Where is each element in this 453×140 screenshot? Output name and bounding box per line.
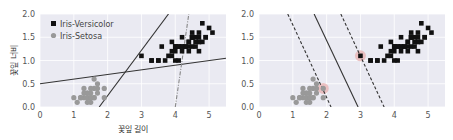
versicolor-point bbox=[385, 54, 390, 59]
versicolor-point bbox=[200, 40, 205, 45]
x-tick-label: 0 bbox=[256, 111, 261, 120]
versicolor-point bbox=[190, 35, 195, 40]
setosa-point bbox=[75, 100, 80, 105]
x-tick-label: 1 bbox=[71, 111, 76, 120]
y-tick-label: 1.5 bbox=[241, 33, 254, 42]
versicolor-point bbox=[368, 58, 373, 63]
versicolor-point bbox=[382, 58, 387, 63]
versicolor-point bbox=[210, 30, 215, 35]
versicolor-point bbox=[193, 40, 198, 45]
versicolor-point bbox=[399, 35, 404, 40]
setosa-point bbox=[321, 95, 326, 100]
y-tick-label: 0.5 bbox=[241, 80, 254, 89]
setosa-point bbox=[102, 95, 107, 100]
setosa-point bbox=[311, 77, 316, 82]
versicolor-point bbox=[203, 35, 208, 40]
setosa-point bbox=[294, 100, 299, 105]
x-tick-label: 5 bbox=[207, 111, 212, 120]
x-tick-label: 4 bbox=[392, 111, 397, 120]
versicolor-point bbox=[399, 49, 404, 54]
setosa-point bbox=[300, 90, 305, 95]
versicolor-point bbox=[193, 44, 198, 49]
setosa-point bbox=[85, 100, 90, 105]
versicolor-point bbox=[375, 58, 380, 63]
right-plot: 0123450.00.51.01.52.0 bbox=[241, 10, 445, 120]
versicolor-point bbox=[173, 49, 178, 54]
versicolor-point bbox=[187, 49, 192, 54]
x-tick-label: 2 bbox=[324, 111, 329, 120]
versicolor-point bbox=[395, 44, 400, 49]
x-tick-label: 3 bbox=[358, 111, 363, 120]
setosa-point bbox=[95, 81, 100, 86]
versicolor-point bbox=[409, 30, 414, 35]
setosa-point bbox=[92, 77, 97, 82]
setosa-point bbox=[88, 86, 93, 91]
y-tick-label: 0.5 bbox=[22, 80, 35, 89]
versicolor-point bbox=[419, 21, 424, 26]
y-tick-label: 0.0 bbox=[22, 103, 35, 112]
versicolor-point bbox=[187, 40, 192, 45]
versicolor-point bbox=[406, 49, 411, 54]
versicolor-point bbox=[200, 21, 205, 26]
y-tick-label: 1.5 bbox=[22, 33, 35, 42]
versicolor-point bbox=[207, 26, 212, 31]
versicolor-point bbox=[416, 30, 421, 35]
versicolor-point bbox=[163, 58, 168, 63]
setosa-point bbox=[314, 90, 319, 95]
versicolor-point bbox=[402, 44, 407, 49]
x-tick-label: 5 bbox=[426, 111, 431, 120]
versicolor-point bbox=[429, 30, 434, 35]
versicolor-point bbox=[409, 35, 414, 40]
x-tick-label: 4 bbox=[173, 111, 178, 120]
setosa-point bbox=[102, 86, 107, 91]
versicolor-point bbox=[422, 35, 427, 40]
versicolor-point bbox=[166, 54, 171, 59]
y-axis-label: 꽃잎 너비 bbox=[9, 45, 19, 76]
chart-figure: 0123450.00.51.01.52.0꽃잎 길이꽃잎 너비Iris-Vers… bbox=[0, 0, 453, 140]
versicolor-point bbox=[176, 58, 181, 63]
versicolor-point bbox=[159, 44, 164, 49]
setosa-point bbox=[71, 95, 76, 100]
y-tick-label: 2.0 bbox=[241, 10, 254, 19]
legend-label: Iris-Versicolor bbox=[60, 20, 114, 29]
x-tick-label: 0 bbox=[37, 111, 42, 120]
versicolor-point bbox=[389, 40, 394, 45]
setosa-point bbox=[95, 90, 100, 95]
left-plot: 0123450.00.51.01.52.0꽃잎 길이꽃잎 너비Iris-Vers… bbox=[9, 10, 226, 134]
versicolor-point bbox=[180, 49, 185, 54]
setosa-point bbox=[300, 86, 305, 91]
y-tick-label: 2.0 bbox=[22, 10, 35, 19]
versicolor-point bbox=[419, 40, 424, 45]
x-tick-label: 1 bbox=[290, 111, 295, 120]
legend-setosa-icon bbox=[51, 33, 56, 38]
setosa-point bbox=[304, 100, 309, 105]
versicolor-point bbox=[426, 26, 431, 31]
versicolor-point bbox=[183, 44, 188, 49]
versicolor-point bbox=[156, 58, 161, 63]
y-tick-label: 0.0 bbox=[241, 103, 254, 112]
setosa-point bbox=[297, 95, 302, 100]
versicolor-point bbox=[170, 40, 175, 45]
versicolor-point bbox=[416, 35, 421, 40]
legend-versicolor-icon bbox=[51, 21, 56, 26]
versicolor-point bbox=[406, 40, 411, 45]
versicolor-point bbox=[412, 40, 417, 45]
versicolor-point bbox=[197, 30, 202, 35]
versicolor-point bbox=[395, 58, 400, 63]
versicolor-point bbox=[149, 58, 154, 63]
x-tick-label: 2 bbox=[105, 111, 110, 120]
versicolor-point bbox=[378, 44, 383, 49]
setosa-point bbox=[321, 86, 326, 91]
versicolor-point bbox=[180, 35, 185, 40]
versicolor-point bbox=[197, 49, 202, 54]
versicolor-point bbox=[392, 49, 397, 54]
versicolor-point bbox=[176, 44, 181, 49]
x-axis-label: 꽃잎 길이 bbox=[118, 124, 149, 134]
y-tick-label: 1.0 bbox=[241, 57, 254, 66]
setosa-point bbox=[307, 86, 312, 91]
y-tick-label: 1.0 bbox=[22, 57, 35, 66]
x-tick-label: 3 bbox=[139, 111, 144, 120]
versicolor-point bbox=[416, 49, 421, 54]
setosa-point bbox=[81, 90, 86, 95]
versicolor-point bbox=[358, 54, 363, 59]
